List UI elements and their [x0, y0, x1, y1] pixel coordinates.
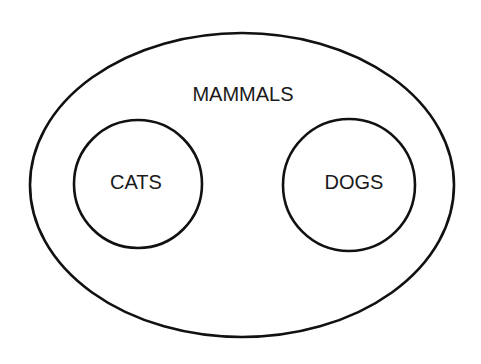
euler-diagram: MAMMALS CATS DOGS [0, 0, 481, 364]
cats-label: CATS [110, 171, 162, 193]
mammals-label: MAMMALS [192, 83, 293, 105]
mammals-set-ellipse [30, 33, 454, 337]
dogs-label: DOGS [325, 171, 384, 193]
